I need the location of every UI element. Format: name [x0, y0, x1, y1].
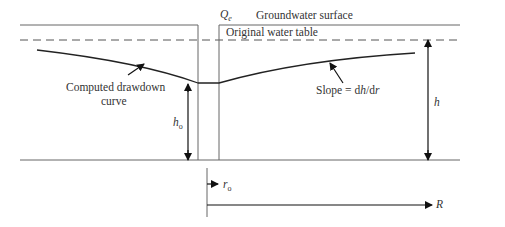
R-label: R [436, 198, 443, 211]
ro-label: ro [223, 178, 231, 195]
well-drawdown-diagram: Qe Groundwater surface Original water ta… [0, 0, 505, 227]
ground-surface-label: Groundwater surface [256, 9, 353, 22]
drawdown-label-line2: curve [101, 95, 127, 108]
h-label: h [434, 96, 440, 109]
drawdown-label-line1: Computed drawdown [66, 81, 165, 94]
original-table-label: Original water table [226, 26, 318, 39]
drawdown-curve [37, 50, 415, 83]
slope-label: Slope = dh/dr [316, 84, 379, 97]
qe-label: Qe [220, 8, 232, 25]
ho-label: ho [173, 116, 183, 133]
slope-pointer [330, 63, 343, 83]
